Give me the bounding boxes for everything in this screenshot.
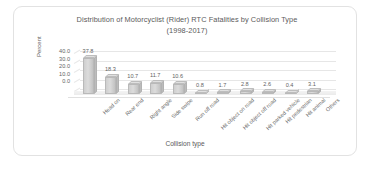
y-tick-40: 40.0 bbox=[59, 48, 70, 54]
bar-6 bbox=[217, 92, 228, 94]
bar-3 bbox=[150, 83, 161, 94]
x-label-10: Others bbox=[324, 97, 340, 113]
bar-value-label-4: 10.6 bbox=[166, 73, 190, 79]
bar-side-face-0 bbox=[94, 55, 97, 94]
plot-area: 37.818.310.711.710.60.81.72.82.60.43.1 bbox=[74, 51, 336, 94]
bar-value-label-0: 37.8 bbox=[76, 48, 100, 54]
x-axis-labels: Head onRear endRight angleSide swipeRun … bbox=[80, 97, 348, 139]
x-label-1: Rear end bbox=[124, 97, 145, 117]
bar-side-face-1 bbox=[116, 74, 119, 94]
bar-value-label-5: 0.8 bbox=[188, 82, 212, 88]
y-tick-30: 30.0 bbox=[59, 56, 70, 62]
bar-value-label-10: 3.1 bbox=[300, 81, 324, 87]
bar-column: 3.1 bbox=[304, 51, 326, 94]
bar-column: 0.4 bbox=[282, 51, 304, 94]
bar-4 bbox=[173, 84, 184, 94]
bar-value-label-1: 18.3 bbox=[98, 66, 122, 72]
bar-series: 37.818.310.711.710.60.81.72.82.60.43.1 bbox=[80, 51, 336, 94]
bar-1 bbox=[105, 77, 116, 94]
bar-0 bbox=[83, 58, 94, 94]
bar-value-label-8: 2.6 bbox=[255, 81, 279, 87]
chart-card: Distribution of Motorcyclist (Rider) RTC… bbox=[13, 6, 357, 156]
x-label-4: Run off road bbox=[194, 97, 220, 122]
chart-title-line-1: Distribution of Motorcyclist (Rider) RTC… bbox=[42, 15, 332, 26]
bar-10 bbox=[307, 91, 318, 94]
bar-column: 37.8 bbox=[80, 51, 102, 94]
y-tick-20: 20.0 bbox=[59, 63, 70, 69]
x-label-0: Head on bbox=[102, 97, 121, 116]
chart-title: Distribution of Motorcyclist (Rider) RTC… bbox=[42, 15, 332, 36]
bar-value-label-6: 1.7 bbox=[210, 82, 234, 88]
chart-title-line-2: (1998-2017) bbox=[42, 26, 332, 37]
bar-value-label-7: 2.8 bbox=[233, 81, 257, 87]
y-tick-0: 0.0 bbox=[62, 78, 70, 84]
x-label-2: Right angle bbox=[148, 97, 172, 120]
bar-value-label-2: 10.7 bbox=[121, 73, 145, 79]
bar-value-label-3: 11.7 bbox=[143, 72, 167, 78]
bar-column: 1.7 bbox=[214, 51, 236, 94]
bar-value-label-9: 0.4 bbox=[278, 82, 302, 88]
bar-column: 2.8 bbox=[237, 51, 259, 94]
y-tick-10: 10.0 bbox=[59, 71, 70, 77]
x-axis-title: Collision type bbox=[14, 140, 356, 147]
y-axis-ticks: 40.0 30.0 20.0 10.0 0.0 bbox=[40, 48, 70, 95]
bar-7 bbox=[240, 91, 251, 94]
x-label-3: Side swipe bbox=[170, 97, 194, 120]
bar-2 bbox=[128, 84, 139, 94]
